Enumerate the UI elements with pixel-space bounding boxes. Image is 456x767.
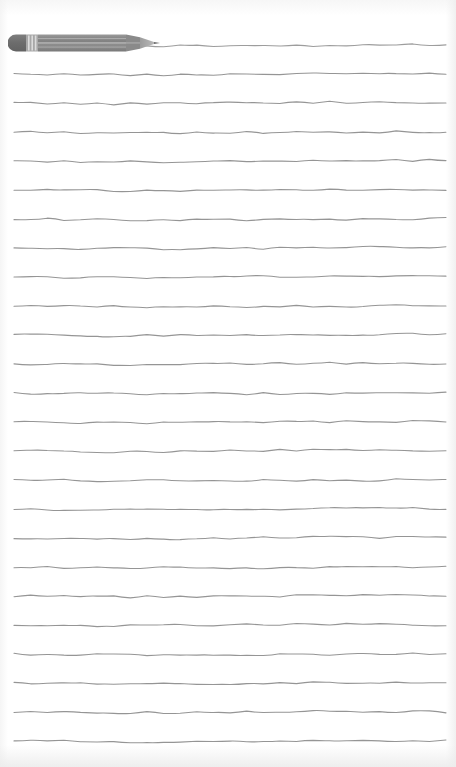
ruled-line [14, 420, 446, 423]
ruled-line [14, 711, 446, 714]
ruled-line [14, 740, 446, 743]
pencil-highlight-stripe [38, 42, 126, 43]
ruled-line [14, 449, 446, 453]
pencil-ferrule-ridge [28, 36, 30, 51]
ruled-line [14, 508, 446, 511]
ruled-line [14, 218, 446, 221]
pencil-ferrule-ridge [31, 36, 33, 51]
ruled-line [14, 131, 446, 134]
pencil-eraser [8, 35, 26, 52]
ruled-line [14, 73, 446, 76]
pencil-highlight-stripe [38, 38, 126, 39]
ruled-line [14, 101, 446, 105]
ruled-line [14, 159, 446, 162]
pencil-wood-cone [140, 37, 154, 48]
pencil-shoulder-stripe [126, 42, 140, 43]
pencil-lead-tip [154, 42, 160, 44]
ruled-line [14, 623, 446, 626]
ruled-line [14, 479, 446, 482]
rule-group [14, 44, 446, 743]
ruled-line [14, 333, 446, 337]
ruled-line [14, 536, 446, 539]
notepad-page [0, 0, 456, 767]
ruled-line [14, 595, 446, 598]
ruled-line [14, 392, 446, 395]
pencil-highlight-stripe [38, 47, 126, 48]
ruled-line [14, 566, 446, 568]
ruled-line [14, 276, 446, 279]
ruled-line [14, 653, 446, 656]
pencil-icon[interactable] [8, 31, 160, 55]
ruled-lines-svg [0, 0, 456, 767]
ruled-line [14, 362, 446, 365]
ruled-line [14, 682, 446, 685]
ruled-lines-layer [0, 0, 456, 767]
pencil-ferrule-ridge [35, 36, 37, 51]
ruled-line [14, 246, 446, 249]
ruled-line [14, 305, 446, 308]
ruled-line [14, 189, 446, 191]
